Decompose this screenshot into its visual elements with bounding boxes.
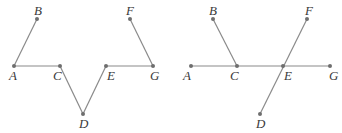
point-label-a: A [8, 68, 17, 83]
point-label-f: F [304, 3, 314, 18]
segment-bc [213, 19, 237, 66]
point-label-d: D [255, 116, 266, 131]
point-label-e: E [106, 68, 115, 83]
right-figure: ABCDEFG [182, 3, 339, 131]
point-label-g: G [329, 68, 339, 83]
point-label-b: B [34, 3, 42, 18]
point-label-a: A [182, 68, 191, 83]
segment-de [83, 66, 106, 114]
point-label-e: E [283, 68, 292, 83]
segment-cd [60, 66, 83, 114]
point-label-c: C [230, 68, 239, 83]
point-label-g: G [150, 68, 160, 83]
segment-gf [130, 19, 153, 66]
point-label-f: F [125, 3, 135, 18]
point-label-d: D [78, 116, 89, 131]
point-label-c: C [53, 68, 62, 83]
point-label-b: B [209, 3, 217, 18]
geometry-diagram: ABCDEFG ABCDEFG [0, 0, 342, 133]
left-figure: ABCDEFG [8, 3, 160, 131]
segment-ab [14, 19, 37, 66]
